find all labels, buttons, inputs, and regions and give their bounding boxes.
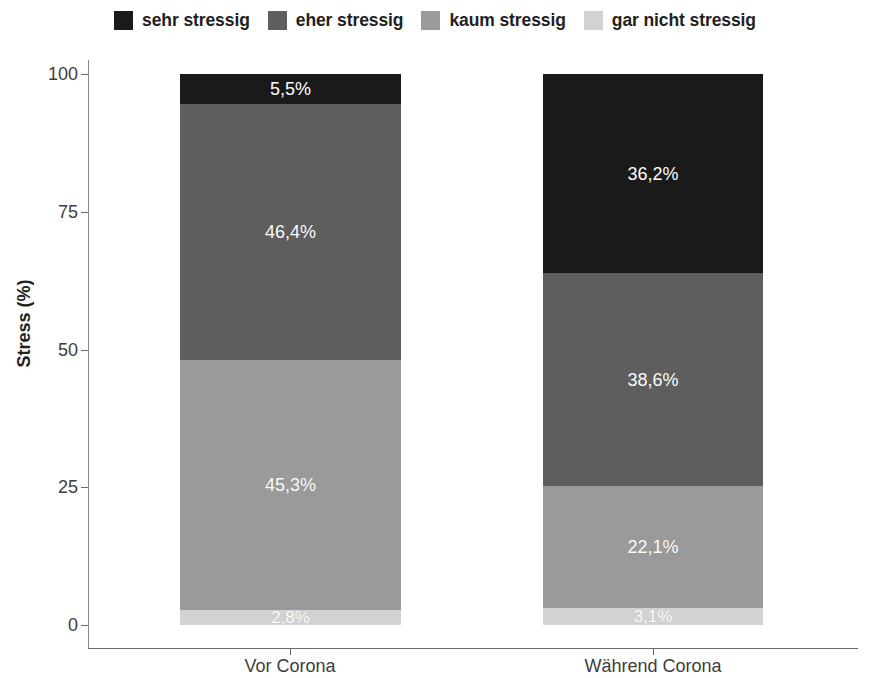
- bar-segment-sehr-stressig[interactable]: 5,5%: [180, 74, 401, 104]
- bar-segment-label: 2,8%: [271, 609, 310, 626]
- bar-segment-kaum-stressig[interactable]: 45,3%: [180, 360, 401, 610]
- bar-segment-eher-stressig[interactable]: 38,6%: [543, 273, 763, 486]
- y-tick-label-75: 75: [18, 202, 78, 223]
- y-axis-line: [88, 60, 89, 648]
- x-axis-line: [88, 648, 858, 649]
- y-axis-title: Stress (%): [14, 264, 35, 384]
- y-tick-label-50: 50: [18, 340, 78, 361]
- bar-segment-label: 46,4%: [265, 223, 316, 241]
- x-tick-mark-waehrend-corona: [653, 648, 654, 655]
- x-axis-label-vor-corona: Vor Corona: [130, 656, 450, 677]
- y-tick-mark-50: [81, 350, 88, 351]
- bar-segment-gar-nicht-stressig[interactable]: 2,8%: [180, 610, 401, 625]
- bar-segment-label: 36,2%: [627, 165, 678, 183]
- bar-segment-kaum-stressig[interactable]: 22,1%: [543, 486, 763, 608]
- stacked-bar-waehrend-corona[interactable]: 36,2% 38,6% 22,1% 3,1%: [543, 74, 763, 625]
- chart-plot-area: Stress (%) 100 75 50 25 0 5,5% 46,4% 45,…: [0, 0, 870, 678]
- y-tick-label-100: 100: [18, 64, 78, 85]
- x-axis-label-waehrend-corona: Während Corona: [493, 656, 813, 677]
- x-tick-mark-vor-corona: [290, 648, 291, 655]
- bar-segment-label: 45,3%: [265, 476, 316, 494]
- bar-segment-label: 3,1%: [634, 608, 673, 625]
- bar-segment-label: 22,1%: [627, 538, 678, 556]
- y-tick-mark-100: [81, 74, 88, 75]
- y-tick-mark-25: [81, 487, 88, 488]
- stacked-bar-vor-corona[interactable]: 5,5% 46,4% 45,3% 2,8%: [180, 74, 401, 625]
- y-tick-mark-0: [81, 625, 88, 626]
- y-tick-label-25: 25: [18, 477, 78, 498]
- bar-segment-eher-stressig[interactable]: 46,4%: [180, 104, 401, 360]
- y-tick-label-0: 0: [18, 615, 78, 636]
- bar-segment-label: 38,6%: [627, 371, 678, 389]
- bar-segment-gar-nicht-stressig[interactable]: 3,1%: [543, 608, 763, 625]
- bar-segment-label: 5,5%: [270, 80, 311, 98]
- bar-segment-sehr-stressig[interactable]: 36,2%: [543, 74, 763, 273]
- y-tick-mark-75: [81, 212, 88, 213]
